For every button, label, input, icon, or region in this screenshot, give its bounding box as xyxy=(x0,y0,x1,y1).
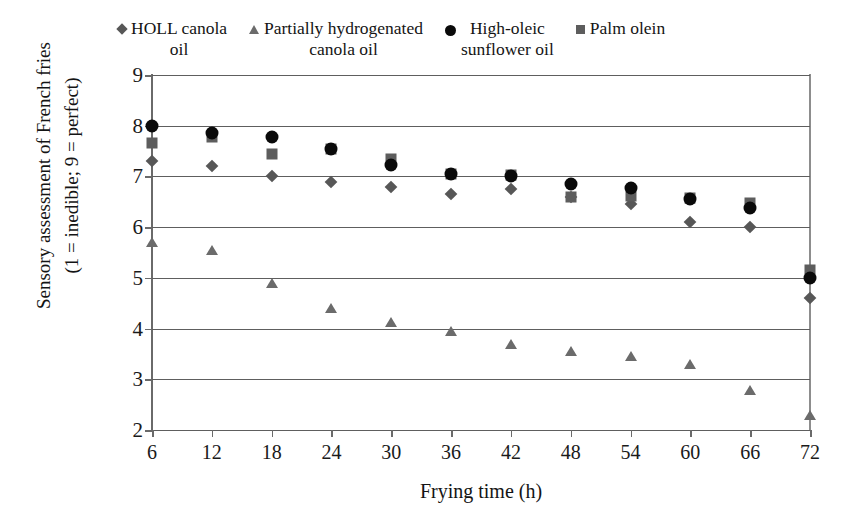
data-point xyxy=(385,159,398,172)
y-tick-label-7: 7 xyxy=(133,164,144,189)
data-point xyxy=(445,326,457,336)
y-tick-mark-6 xyxy=(145,227,152,229)
data-point xyxy=(325,303,337,313)
data-point xyxy=(744,201,757,214)
x-tick-label-6: 6 xyxy=(147,441,157,464)
data-point xyxy=(804,292,817,305)
data-point xyxy=(146,119,159,132)
data-point xyxy=(147,138,158,149)
data-point xyxy=(265,130,278,143)
data-point xyxy=(205,160,218,173)
x-tick-label-12: 12 xyxy=(202,441,222,464)
y-tick-label-3: 3 xyxy=(133,367,144,392)
x-tick-label-18: 18 xyxy=(262,441,282,464)
x-tick-mark-42 xyxy=(511,430,513,437)
y-tick-label-9: 9 xyxy=(133,63,144,88)
data-point xyxy=(504,170,517,183)
x-tick-label-48: 48 xyxy=(561,441,581,464)
x-tick-label-72: 72 xyxy=(800,441,820,464)
y-tick-label-4: 4 xyxy=(133,316,144,341)
data-point xyxy=(565,191,576,202)
y-tick-mark-3 xyxy=(145,379,152,381)
x-tick-mark-60 xyxy=(690,430,692,437)
x-tick-label-30: 30 xyxy=(381,441,401,464)
data-point xyxy=(804,410,816,420)
gridline-y-4 xyxy=(152,329,810,330)
x-tick-label-54: 54 xyxy=(621,441,641,464)
x-tick-mark-24 xyxy=(331,430,333,437)
gridline-y-7 xyxy=(152,176,810,177)
data-point xyxy=(684,359,696,369)
data-point xyxy=(266,278,278,288)
data-point xyxy=(744,221,757,234)
data-point xyxy=(804,271,817,284)
x-tick-label-66: 66 xyxy=(740,441,760,464)
gridline-y-2 xyxy=(152,430,810,431)
x-tick-label-24: 24 xyxy=(321,441,341,464)
y-axis-title: Sensory assessment of French fries (1 = … xyxy=(30,0,85,386)
gridline-y-8 xyxy=(152,126,810,127)
data-point xyxy=(205,127,218,140)
data-point xyxy=(265,170,278,183)
x-tick-mark-12 xyxy=(212,430,214,437)
gridline-y-5 xyxy=(152,278,810,279)
y-tick-label-8: 8 xyxy=(133,113,144,138)
data-point xyxy=(146,237,158,247)
y-tick-mark-9 xyxy=(145,75,152,77)
plot-area: 9876543261218243036424854606672 xyxy=(152,75,810,430)
data-point xyxy=(206,245,218,255)
data-point xyxy=(445,188,458,201)
x-tick-label-42: 42 xyxy=(501,441,521,464)
data-point xyxy=(445,167,458,180)
x-axis-title: Frying time (h) xyxy=(152,480,810,503)
x-tick-label-60: 60 xyxy=(680,441,700,464)
data-point xyxy=(505,339,517,349)
x-tick-mark-72 xyxy=(810,430,812,437)
x-tick-mark-36 xyxy=(451,430,453,437)
data-point xyxy=(624,181,637,194)
y-tick-label-6: 6 xyxy=(133,215,144,240)
x-tick-mark-18 xyxy=(272,430,274,437)
x-tick-mark-30 xyxy=(391,430,393,437)
y-tick-mark-5 xyxy=(145,278,152,280)
data-point xyxy=(564,178,577,191)
x-tick-label-36: 36 xyxy=(441,441,461,464)
data-point xyxy=(266,148,277,159)
data-point xyxy=(146,155,159,168)
data-point xyxy=(625,351,637,361)
y-tick-mark-2 xyxy=(145,430,152,432)
gridline-y-9 xyxy=(152,75,810,76)
y-tick-label-2: 2 xyxy=(133,418,144,443)
x-tick-mark-48 xyxy=(571,430,573,437)
x-tick-mark-54 xyxy=(631,430,633,437)
data-point xyxy=(385,317,397,327)
data-point xyxy=(565,346,577,356)
gridline-y-6 xyxy=(152,227,810,228)
data-point xyxy=(385,180,398,193)
data-point xyxy=(744,385,756,395)
data-point xyxy=(505,183,518,196)
data-point xyxy=(325,142,338,155)
y-tick-label-5: 5 xyxy=(133,265,144,290)
y-tick-mark-4 xyxy=(145,329,152,331)
x-tick-mark-66 xyxy=(750,430,752,437)
x-tick-mark-6 xyxy=(152,430,154,437)
data-point xyxy=(684,193,697,206)
chart-plot-wrapper: 9876543261218243036424854606672 Sensory … xyxy=(0,0,852,513)
y-tick-mark-7 xyxy=(145,176,152,178)
gridline-y-3 xyxy=(152,379,810,380)
